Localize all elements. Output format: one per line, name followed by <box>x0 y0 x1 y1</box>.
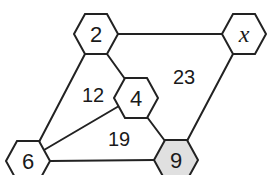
diagram-canvas: 2x469 122319 <box>0 0 267 175</box>
edge-n6-n9 <box>50 160 154 161</box>
region-label-12: 12 <box>82 84 104 106</box>
hexagon-node-2: 2 <box>74 14 118 54</box>
hexagon-node-x: x <box>222 14 266 54</box>
region-label-19: 19 <box>108 128 130 150</box>
node-label: x <box>238 21 250 47</box>
node-label: 9 <box>170 148 182 173</box>
hexagon-graph: 2x469 122319 <box>0 0 267 175</box>
nodes-group: 2x469 <box>6 14 266 175</box>
edge-n4-n9 <box>147 117 165 141</box>
edge-n2-n6 <box>39 54 85 142</box>
region-label-23: 23 <box>173 66 195 88</box>
node-label: 4 <box>130 86 142 111</box>
node-label: 2 <box>90 22 102 47</box>
hexagon-node-9: 9 <box>154 140 198 175</box>
hexagon-node-6: 6 <box>6 141 50 175</box>
hexagon-node-4: 4 <box>114 78 158 118</box>
node-label: 6 <box>22 149 34 174</box>
edge-n2-n4 <box>107 54 125 79</box>
